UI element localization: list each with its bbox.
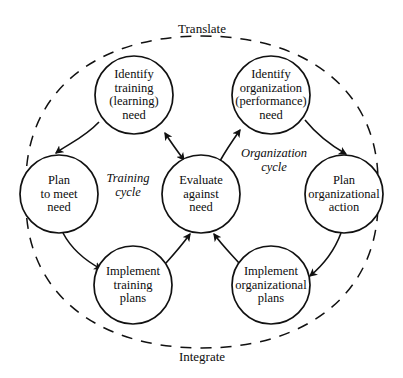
node-circle-implement-organizational-plans[interactable] xyxy=(232,246,310,324)
arc-identify-training-to-plan xyxy=(56,122,99,153)
arc-identify-organization-to-plan-organizational xyxy=(305,120,346,154)
arc-plan-organizational-to-implement-organizational xyxy=(310,233,341,276)
arc-implement-training-to-evaluate xyxy=(166,234,190,263)
node-circle-identify-training-need[interactable] xyxy=(95,56,173,134)
diagram-canvas xyxy=(0,0,403,378)
arc-plan-to-implement-training xyxy=(63,233,101,269)
arc-implement-organizational-to-evaluate xyxy=(214,234,239,263)
node-circle-evaluate-against-need[interactable] xyxy=(162,155,240,233)
node-circle-implement-training-plans[interactable] xyxy=(94,246,172,324)
cycle-diagram: Identify training (learning) need Identi… xyxy=(0,0,403,378)
arc-evaluate-to-identify-organization xyxy=(220,130,240,161)
arc-evaluate-identify-training-bidirectional xyxy=(165,133,184,160)
node-circle-plan-to-meet-need[interactable] xyxy=(20,155,98,233)
node-circle-plan-organizational-action[interactable] xyxy=(305,155,383,233)
node-circle-identify-organization-need[interactable] xyxy=(232,56,310,134)
